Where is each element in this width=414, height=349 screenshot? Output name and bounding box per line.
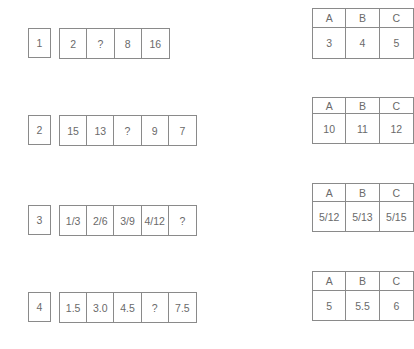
question-number-4: 4 [28,292,51,322]
question-number-1: 1 [28,28,51,58]
sequence-cell: ? [87,29,114,58]
option-header-c: C [380,9,413,28]
sequence-cell: 1.5 [60,293,87,322]
sequence-cell: 1/3 [60,206,87,235]
sequence-4: 1.5 3.0 4.5 ? 7.5 [59,292,197,323]
sequence-1: 2 ? 8 16 [59,28,170,59]
sequence-cell: 13 [87,116,114,145]
option-value-a[interactable]: 10 [313,114,346,143]
question-number-2: 2 [28,115,51,145]
option-value-c[interactable]: 6 [380,291,413,320]
option-header-c: C [380,98,413,114]
sequence-cell: 2/6 [87,206,114,235]
option-header-b: B [346,9,379,28]
sequence-cell: 3/9 [114,206,141,235]
option-value-a[interactable]: 5/12 [313,202,346,231]
sequence-cell: 4/12 [142,206,169,235]
option-value-b[interactable]: 5/13 [346,202,379,231]
option-header-a: A [313,98,346,114]
option-header-a: A [313,272,346,291]
sequence-cell: 3.0 [87,293,114,322]
option-header-a: A [313,9,346,28]
sequence-cell: 9 [142,116,169,145]
option-value-b[interactable]: 11 [346,114,379,143]
options-table-4: A B C 5 5.5 6 [312,271,414,321]
option-value-c[interactable]: 5 [380,28,413,58]
option-header-b: B [346,98,379,114]
option-value-b[interactable]: 5.5 [346,291,379,320]
sequence-cell: 2 [60,29,87,58]
sequence-cell: 8 [115,29,142,58]
sequence-cell: ? [142,293,169,322]
option-header-b: B [346,184,379,202]
option-value-a[interactable]: 3 [313,28,346,58]
options-table-3: A B C 5/12 5/13 5/15 [312,183,414,232]
option-value-b[interactable]: 4 [346,28,379,58]
sequence-3: 1/3 2/6 3/9 4/12 ? [59,205,197,236]
option-value-c[interactable]: 5/15 [380,202,413,231]
sequence-cell: 15 [60,116,87,145]
sequence-cell: ? [114,116,141,145]
option-value-c[interactable]: 12 [380,114,413,143]
options-table-2: A B C 10 11 12 [312,97,414,144]
option-header-c: C [380,184,413,202]
option-header-c: C [380,272,413,291]
sequence-cell: 16 [142,29,169,58]
sequence-cell: ? [169,206,196,235]
options-table-1: A B C 3 4 5 [312,8,414,59]
sequence-cell: 7.5 [169,293,196,322]
sequence-cell: 7 [169,116,196,145]
sequence-2: 15 13 ? 9 7 [59,115,197,146]
option-header-a: A [313,184,346,202]
option-value-a[interactable]: 5 [313,291,346,320]
option-header-b: B [346,272,379,291]
question-number-3: 3 [28,205,51,235]
sequence-cell: 4.5 [114,293,141,322]
